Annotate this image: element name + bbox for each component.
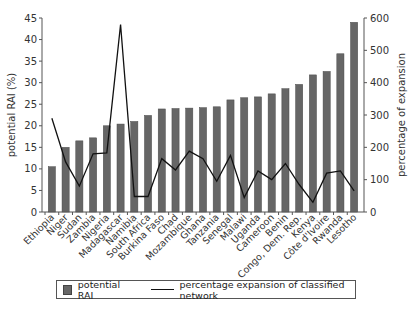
y2-tick-label: 500 bbox=[370, 45, 389, 56]
legend-line-swatch-icon bbox=[151, 289, 173, 290]
bar bbox=[254, 97, 261, 212]
bar bbox=[351, 22, 358, 212]
y2-tick-label: 300 bbox=[370, 110, 389, 121]
y-tick-label: 30 bbox=[24, 77, 37, 88]
y-tick-label: 25 bbox=[24, 99, 37, 110]
y-tick-label: 45 bbox=[24, 13, 37, 24]
y-tick-label: 10 bbox=[24, 163, 37, 174]
y-tick-label: 20 bbox=[24, 120, 37, 131]
bar bbox=[48, 167, 55, 212]
y-tick-label: 15 bbox=[24, 142, 37, 153]
bar bbox=[309, 75, 316, 212]
bar bbox=[296, 84, 303, 212]
y-tick-label: 5 bbox=[31, 185, 37, 196]
bar bbox=[144, 115, 151, 212]
bar bbox=[241, 98, 248, 212]
legend-line-label: percentage expansion of classified netwo… bbox=[180, 279, 355, 301]
bar bbox=[62, 147, 69, 212]
bar bbox=[103, 126, 110, 212]
bar bbox=[282, 89, 289, 212]
y2-axis-title: percentage of expansion bbox=[396, 53, 407, 177]
legend: potential RAI percentage expansion of cl… bbox=[56, 280, 356, 299]
y2-tick-label: 0 bbox=[370, 207, 376, 218]
y2-tick-label: 400 bbox=[370, 77, 389, 88]
chart-canvas: 0510152025303540450100200300400500600pot… bbox=[0, 0, 412, 280]
bar bbox=[172, 109, 179, 212]
y2-tick-label: 100 bbox=[370, 174, 389, 185]
bar bbox=[337, 54, 344, 212]
legend-bar-swatch-icon bbox=[63, 285, 72, 295]
bar bbox=[186, 108, 193, 212]
y-tick-label: 35 bbox=[24, 56, 37, 67]
bar bbox=[268, 94, 275, 212]
y2-tick-label: 600 bbox=[370, 13, 389, 24]
y2-tick-label: 200 bbox=[370, 142, 389, 153]
y-axis-title: potential RAI (%) bbox=[6, 73, 17, 158]
bar bbox=[323, 71, 330, 212]
legend-bar-label: potential RAI bbox=[78, 279, 130, 301]
bar bbox=[117, 124, 124, 212]
bar bbox=[76, 141, 83, 212]
bar bbox=[90, 138, 97, 212]
bar bbox=[213, 107, 220, 212]
y-tick-label: 0 bbox=[31, 207, 37, 218]
y-tick-label: 40 bbox=[24, 34, 37, 45]
